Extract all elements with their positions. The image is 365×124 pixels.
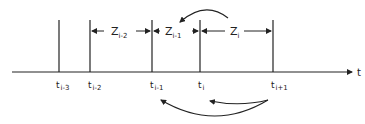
axis-label: t <box>357 67 361 78</box>
interval-label-z-i: Zi <box>230 25 240 40</box>
interval-label-z-i-1: Zi-1 <box>165 25 181 40</box>
tick-label-t-i+1: ti+1 <box>271 80 288 92</box>
tick-label-t-i-2: ti-2 <box>88 80 101 92</box>
interval-label-z-i-2: Zi-2 <box>111 25 127 40</box>
tick-label-t-i-3: ti-3 <box>56 80 69 92</box>
bottom-short-curved-arrow <box>210 100 268 104</box>
tick-label-t-i-1: ti-1 <box>150 80 163 92</box>
tick-label-t-i: ti <box>198 80 205 92</box>
timeline-diagram: t Zi-2 Zi-1 Zi ti-3 ti-2 ti-1 ti ti+1 <box>0 0 365 124</box>
top-curved-arrow <box>180 10 228 22</box>
